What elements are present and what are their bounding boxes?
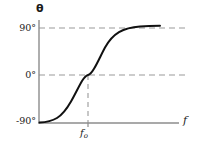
y-tick-label-plus-90: 90° [0, 23, 36, 33]
x-axis-title: f [183, 115, 187, 126]
y-axis-title: θ [36, 3, 44, 14]
phase-curve [40, 26, 161, 123]
y-tick-label-zero: 0° [0, 70, 36, 80]
x-tick-label-f0-subscript: o [84, 132, 88, 140]
x-tick-label-f0: fo [80, 128, 88, 138]
phase-frequency-figure: θ f 90° 0° -90° fo [0, 0, 200, 151]
y-tick-label-minus-90: -90° [0, 116, 36, 126]
